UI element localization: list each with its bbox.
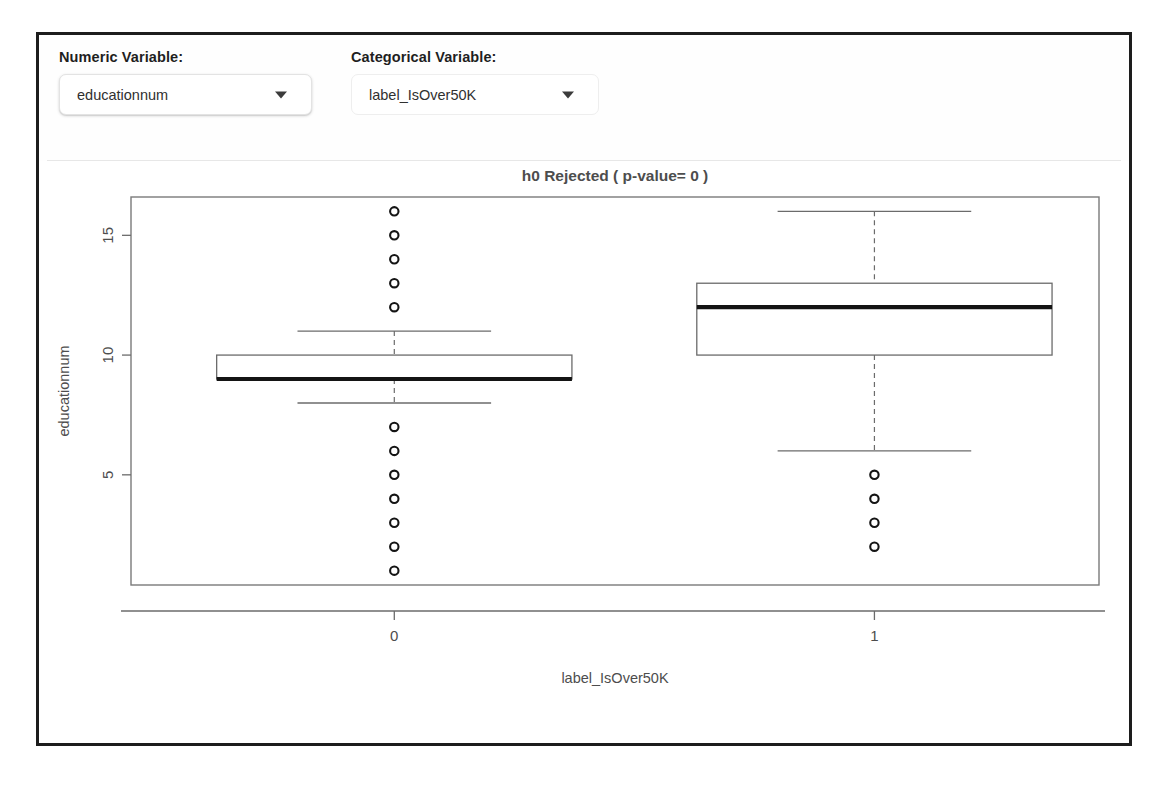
chevron-down-icon <box>562 91 574 98</box>
y-axis-label: educationnum <box>56 345 72 436</box>
boxplot-figure: h0 Rejected ( p-value= 0 )51015education… <box>39 161 1129 743</box>
outlier-point <box>390 231 398 239</box>
boxplot-svg: h0 Rejected ( p-value= 0 )51015education… <box>39 161 1129 746</box>
numeric-variable-label: Numeric Variable: <box>59 49 312 65</box>
y-tick-label-5: 5 <box>99 471 116 479</box>
categorical-variable-control: Categorical Variable: label_IsOver50K <box>351 49 599 115</box>
numeric-variable-select[interactable]: educationnum <box>59 74 312 115</box>
categorical-variable-label: Categorical Variable: <box>351 49 599 65</box>
chart-title: h0 Rejected ( p-value= 0 ) <box>522 167 709 184</box>
numeric-variable-value: educationnum <box>77 87 168 103</box>
outlier-point <box>390 303 398 311</box>
outlier-point <box>390 207 398 215</box>
outlier-point <box>390 423 398 431</box>
app-card: Numeric Variable: educationnum Categoric… <box>36 32 1132 746</box>
x-tick-label-1: 1 <box>870 627 878 644</box>
outlier-point <box>390 471 398 479</box>
categorical-variable-value: label_IsOver50K <box>369 87 476 103</box>
outlier-point <box>390 519 398 527</box>
outlier-point <box>870 495 878 503</box>
outlier-point <box>870 519 878 527</box>
outlier-point <box>390 495 398 503</box>
outlier-point <box>390 255 398 263</box>
x-axis-label: label_IsOver50K <box>561 670 669 686</box>
plot-panel-border <box>131 197 1099 585</box>
numeric-variable-control: Numeric Variable: educationnum <box>59 49 312 115</box>
chevron-down-icon <box>275 91 287 98</box>
outlier-point <box>390 279 398 287</box>
box-rect-1 <box>697 283 1052 355</box>
outlier-point <box>390 447 398 455</box>
y-tick-label-10: 10 <box>99 347 116 364</box>
outlier-point <box>390 566 398 574</box>
outlier-point <box>870 471 878 479</box>
y-tick-label-15: 15 <box>99 227 116 244</box>
box-rect-0 <box>217 355 572 379</box>
outlier-point <box>390 542 398 550</box>
categorical-variable-select[interactable]: label_IsOver50K <box>351 74 599 115</box>
outlier-point <box>870 542 878 550</box>
controls-panel: Numeric Variable: educationnum Categoric… <box>39 35 1129 161</box>
x-tick-label-0: 0 <box>390 627 398 644</box>
